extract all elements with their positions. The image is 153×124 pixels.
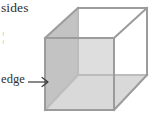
cube-illustration [0,0,153,124]
sides-text-label: sides [1,1,29,15]
cube-figure: sides ¦ edge [0,0,153,124]
edge-text-label: edge [1,73,25,86]
arrow-right-icon [28,76,52,88]
stray-mark-text: ¦ [2,31,5,43]
